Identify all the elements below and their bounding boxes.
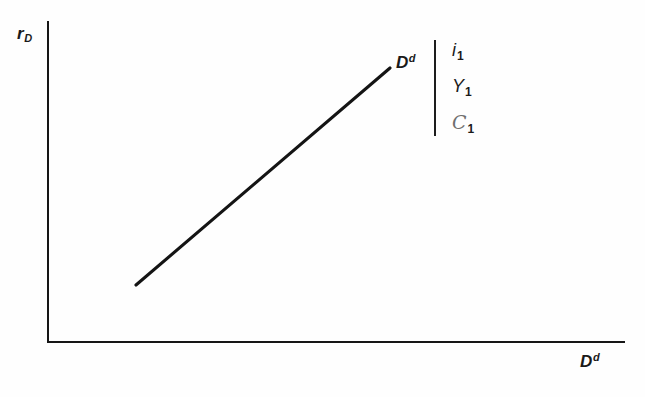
y-axis-label: rD xyxy=(17,24,32,44)
demand-curve-plot xyxy=(0,0,645,397)
demand-curve-label-symbol: D xyxy=(396,53,408,72)
annotation-divider-bar xyxy=(434,40,436,136)
annotation-item-list: i1 Y1 C1 xyxy=(452,40,474,139)
y-axis-label-symbol: r xyxy=(17,24,24,43)
held-constant-annotation: i1 Y1 C1 xyxy=(434,40,474,139)
deposit-demand-figure: rD Dd Dd i1 Y1 C1 xyxy=(0,0,645,397)
y-axis-line xyxy=(47,21,49,343)
annotation-subscript: 1 xyxy=(457,49,464,63)
x-axis-label-symbol: D xyxy=(580,352,592,371)
x-axis-label: Dd xyxy=(580,351,600,372)
demand-curve-label: Dd xyxy=(396,52,416,73)
annotation-symbol: i xyxy=(452,40,456,60)
x-axis-line xyxy=(47,341,625,343)
annotation-item-interest-rate: i1 xyxy=(452,41,474,66)
y-axis-label-subscript: D xyxy=(24,32,32,44)
annotation-subscript: 1 xyxy=(468,122,475,136)
annotation-item-script-c: C1 xyxy=(452,113,474,139)
annotation-symbol: C xyxy=(452,111,467,133)
x-axis-label-superscript: d xyxy=(593,351,600,363)
demand-curve-label-superscript: d xyxy=(409,52,416,64)
demand-curve-line xyxy=(136,68,390,285)
annotation-symbol: Y xyxy=(452,76,464,96)
annotation-subscript: 1 xyxy=(465,85,472,99)
annotation-item-income: Y1 xyxy=(452,77,474,102)
